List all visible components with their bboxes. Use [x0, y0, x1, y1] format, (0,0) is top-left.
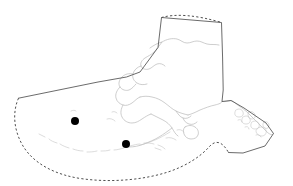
map-canvas: [0, 0, 293, 186]
site-marker-site-2[interactable]: [122, 140, 130, 148]
map-figure: Alaska Alaska: [0, 0, 293, 186]
site-marker-site-1[interactable]: [71, 117, 79, 125]
